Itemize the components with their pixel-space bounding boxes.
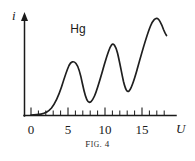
x-tick-label-5: 5: [65, 122, 72, 137]
x-axis-label: U: [176, 121, 187, 136]
franck-hertz-plot: Hg i U 0 5 10 15: [0, 0, 195, 161]
x-tick-label-10: 10: [99, 122, 112, 137]
y-axis-arrow-icon: [21, 12, 28, 21]
figure-container: Hg i U 0 5 10 15 FIG. 4: [0, 0, 195, 161]
y-axis: [21, 12, 28, 116]
x-tick-label-0: 0: [28, 122, 35, 137]
figure-caption: FIG. 4: [0, 139, 195, 149]
caption-suffix: . 4: [99, 139, 109, 149]
franck-hertz-curve: [31, 18, 167, 115]
y-axis-label: i: [12, 8, 16, 23]
series-label-hg: Hg: [70, 22, 85, 36]
x-tick-label-15: 15: [136, 122, 149, 137]
